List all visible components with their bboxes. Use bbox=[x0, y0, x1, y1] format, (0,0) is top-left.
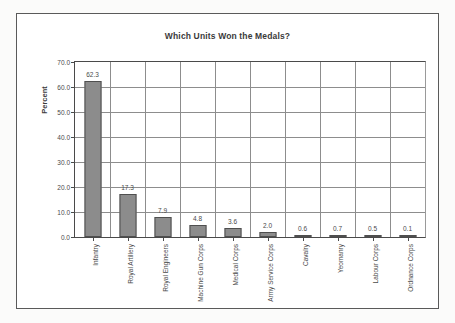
y-tick-label: 0.0 bbox=[61, 234, 70, 241]
bar[interactable] bbox=[119, 194, 136, 237]
bar-value-label: 3.6 bbox=[228, 218, 237, 225]
x-label-slot: Ordnance Corps bbox=[389, 242, 424, 323]
bar-slot: 4.8 bbox=[180, 62, 215, 237]
bar-slot: 0.6 bbox=[285, 62, 320, 237]
y-tick-label: 40.0 bbox=[57, 134, 70, 141]
x-tick-mark bbox=[198, 237, 199, 241]
x-tick-mark bbox=[128, 237, 129, 241]
x-tick-label: Cavalry bbox=[302, 244, 309, 266]
x-label-slot: Army Service Corps bbox=[249, 242, 284, 323]
bar-value-label: 0.7 bbox=[333, 225, 342, 232]
x-tick-mark bbox=[373, 237, 374, 241]
x-tick-mark bbox=[163, 237, 164, 241]
bar[interactable] bbox=[84, 81, 101, 237]
chart-title: Which Units Won the Medals? bbox=[17, 31, 438, 41]
x-label-slot: Labour Corps bbox=[354, 242, 389, 323]
bar[interactable] bbox=[189, 225, 206, 237]
bar-series: 62.317.37.94.83.62.00.60.70.50.1 bbox=[75, 62, 425, 237]
y-tick-label: 20.0 bbox=[57, 184, 70, 191]
y-axis-title: Percent bbox=[40, 70, 49, 130]
bar-slot: 0.5 bbox=[355, 62, 390, 237]
x-tick-mark bbox=[408, 237, 409, 241]
x-tick-label: Royal Artillery bbox=[127, 244, 134, 284]
bar-value-label: 2.0 bbox=[263, 222, 272, 229]
x-tick-mark bbox=[338, 237, 339, 241]
x-label-slot: Cavalry bbox=[284, 242, 319, 323]
plot-area: 0.010.020.030.040.050.060.070.0 62.317.3… bbox=[74, 61, 426, 238]
x-tick-label: Army Service Corps bbox=[267, 244, 274, 302]
x-tick-label: Ordnance Corps bbox=[407, 244, 414, 292]
bar-value-label: 4.8 bbox=[193, 215, 202, 222]
y-tick-mark bbox=[71, 237, 75, 238]
x-label-slot: Medical Corps bbox=[214, 242, 249, 323]
x-tick-mark bbox=[93, 237, 94, 241]
x-tick-label: Labour Corps bbox=[372, 244, 379, 283]
x-label-slot: Infantry bbox=[74, 242, 109, 323]
bar-slot: 3.6 bbox=[215, 62, 250, 237]
bar-value-label: 0.5 bbox=[368, 225, 377, 232]
bar-value-label: 7.9 bbox=[158, 207, 167, 214]
x-tick-label: Yeomanry bbox=[337, 244, 344, 273]
x-tick-label: Royal Engineers bbox=[162, 244, 169, 292]
x-tick-mark bbox=[268, 237, 269, 241]
bar-slot: 0.7 bbox=[320, 62, 355, 237]
x-label-slot: Royal Artillery bbox=[109, 242, 144, 323]
bar[interactable] bbox=[154, 217, 171, 237]
bar-slot: 62.3 bbox=[75, 62, 110, 237]
bar[interactable] bbox=[224, 228, 241, 237]
bar-slot: 17.3 bbox=[110, 62, 145, 237]
x-tick-label: Machine Gun Corps bbox=[197, 244, 204, 302]
y-tick-label: 70.0 bbox=[57, 59, 70, 66]
bar-slot: 0.1 bbox=[390, 62, 425, 237]
figure-frame: Which Units Won the Medals? Percent 0.01… bbox=[16, 13, 439, 309]
bar-value-label: 62.3 bbox=[86, 71, 99, 78]
y-tick-label: 50.0 bbox=[57, 109, 70, 116]
x-tick-label: Infantry bbox=[92, 244, 99, 266]
bar-value-label: 17.3 bbox=[121, 184, 134, 191]
x-axis-labels: InfantryRoyal ArtilleryRoyal EngineersMa… bbox=[74, 242, 426, 323]
x-tick-mark bbox=[233, 237, 234, 241]
x-label-slot: Royal Engineers bbox=[144, 242, 179, 323]
chart-page: Which Units Won the Medals? Percent 0.01… bbox=[0, 0, 455, 323]
x-tick-mark bbox=[303, 237, 304, 241]
bar-value-label: 0.6 bbox=[298, 225, 307, 232]
y-tick-label: 10.0 bbox=[57, 209, 70, 216]
x-label-slot: Machine Gun Corps bbox=[179, 242, 214, 323]
bar-slot: 7.9 bbox=[145, 62, 180, 237]
bar-value-label: 0.1 bbox=[403, 225, 412, 232]
bar-slot: 2.0 bbox=[250, 62, 285, 237]
y-tick-label: 60.0 bbox=[57, 84, 70, 91]
x-label-slot: Yeomanry bbox=[319, 242, 354, 323]
x-tick-label: Medical Corps bbox=[232, 244, 239, 286]
y-tick-label: 30.0 bbox=[57, 159, 70, 166]
